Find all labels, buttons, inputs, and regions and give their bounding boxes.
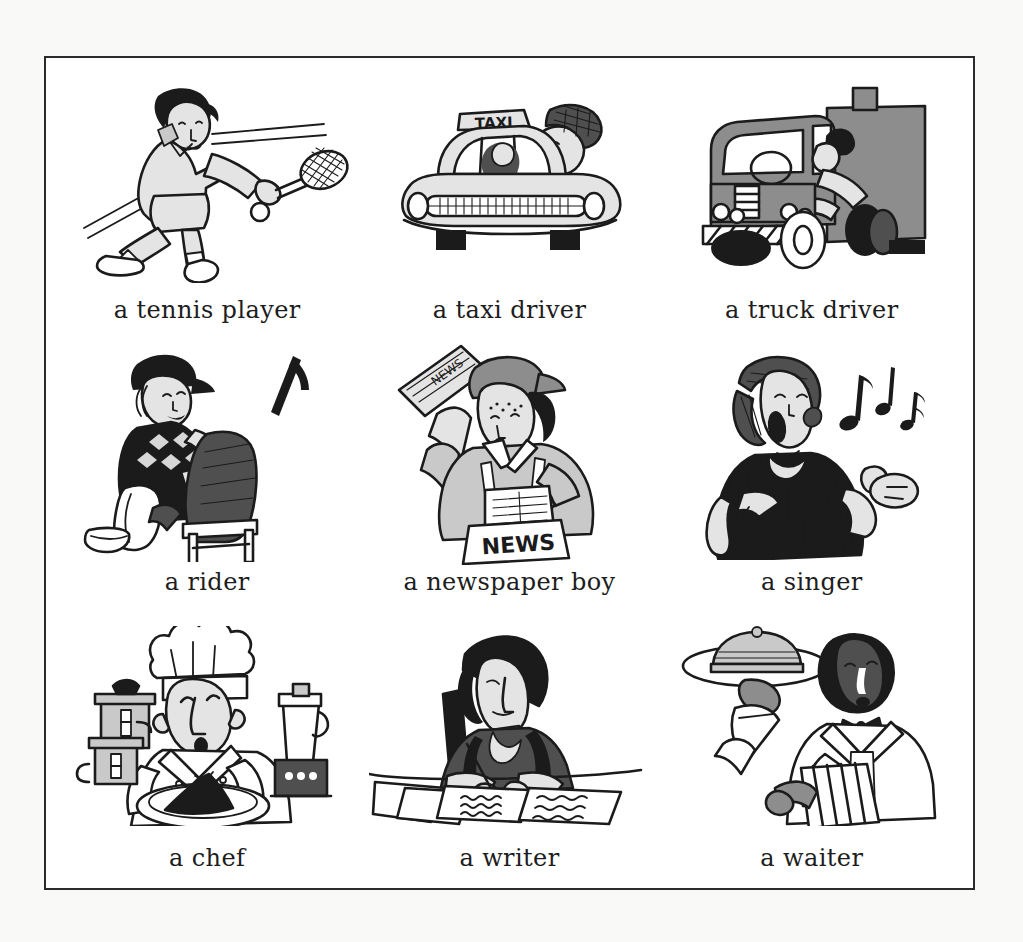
illustration-newspaper-boy: NEWS [358,336,660,570]
illustration-frame: a tennis player [44,56,975,890]
cell-tennis-player[interactable]: a tennis player [56,64,358,336]
occupations-grid: a tennis player [46,58,973,888]
illustration-chef [56,608,358,846]
cell-truck-driver[interactable]: a truck driver [661,64,963,336]
illustration-truck-driver [661,64,963,298]
cell-writer[interactable]: a writer [358,608,660,880]
caption-newspaper-boy: a newspaper boy [403,570,615,608]
illustration-taxi-driver: TAXI [358,64,660,298]
cell-chef[interactable]: a chef [56,608,358,880]
caption-truck-driver: a truck driver [725,298,898,336]
caption-singer: a singer [761,570,863,608]
caption-chef: a chef [169,846,245,880]
cell-newspaper-boy[interactable]: NEWS [358,336,660,608]
illustration-writer [358,608,660,846]
caption-writer: a writer [459,846,559,880]
illustration-singer [661,336,963,570]
cell-waiter[interactable]: a waiter [661,608,963,880]
illustration-rider [56,336,358,570]
cell-singer[interactable]: a singer [661,336,963,608]
caption-tennis-player: a tennis player [114,298,301,336]
svg-text:NEWS: NEWS [481,529,556,559]
caption-rider: a rider [165,570,250,608]
illustration-tennis-player [56,64,358,298]
cell-taxi-driver[interactable]: TAXI [358,64,660,336]
caption-waiter: a waiter [760,846,863,880]
cell-rider[interactable]: a rider [56,336,358,608]
caption-taxi-driver: a taxi driver [433,298,587,336]
worksheet-page: a tennis player [0,0,1023,942]
illustration-waiter [661,608,963,846]
